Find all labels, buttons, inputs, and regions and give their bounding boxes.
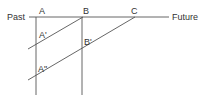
label-b-prime: B': [84, 37, 92, 47]
label-past: Past: [7, 12, 26, 22]
timeline-diagram: Past Future A B C A' B' A": [0, 0, 203, 103]
label-future: Future: [172, 12, 198, 22]
label-a-double-prime: A": [38, 64, 47, 74]
label-b: B: [83, 6, 89, 16]
label-c: C: [131, 6, 138, 16]
label-a-prime: A': [39, 30, 47, 40]
label-a: A: [39, 6, 45, 16]
